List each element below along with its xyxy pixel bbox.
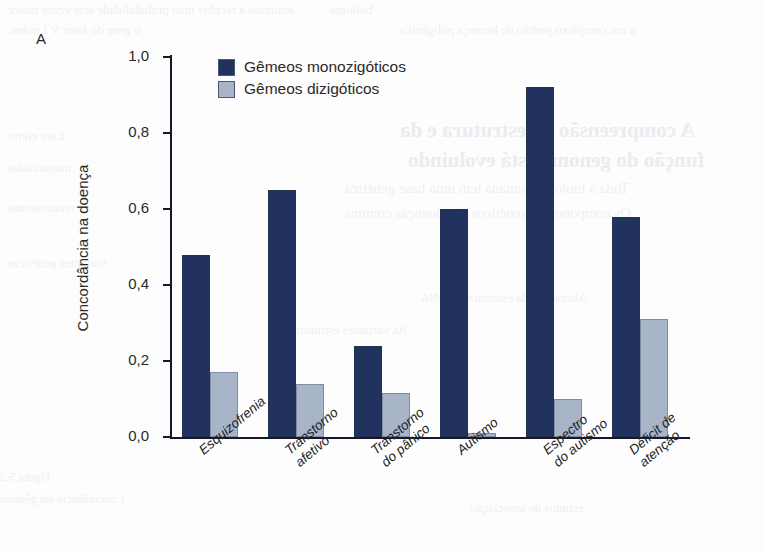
panel-label-a: A bbox=[36, 30, 47, 47]
y-tick-label: 0,4 bbox=[128, 275, 149, 292]
bar-mz bbox=[182, 255, 210, 437]
x-axis-line bbox=[170, 437, 690, 439]
bar-chart-figure: A Concordância na doença 0,00,20,40,60,8… bbox=[0, 0, 763, 553]
y-axis-title: Concordância na doença bbox=[74, 165, 91, 332]
bar-mz bbox=[526, 87, 554, 437]
legend-item-1: Gêmeos dizigóticos bbox=[218, 80, 406, 98]
y-tick-label: 0,0 bbox=[128, 427, 149, 444]
plot-area: 0,00,20,40,60,81,0 bbox=[172, 57, 688, 437]
y-tick: 0,2 bbox=[163, 360, 172, 362]
chart-legend: Gêmeos monozigóticosGêmeos dizigóticos bbox=[218, 58, 406, 102]
legend-label: Gêmeos monozigóticos bbox=[244, 58, 406, 76]
legend-swatch-icon bbox=[218, 59, 235, 76]
legend-swatch-icon bbox=[218, 81, 235, 98]
y-tick-label: 1,0 bbox=[128, 47, 149, 64]
bar-mz bbox=[354, 346, 382, 437]
y-tick: 0,6 bbox=[163, 208, 172, 210]
y-tick-label: 0,6 bbox=[128, 199, 149, 216]
bar-mz bbox=[440, 209, 468, 437]
bar-mz bbox=[268, 190, 296, 437]
y-tick: 0,4 bbox=[163, 284, 172, 286]
y-tick: 0,8 bbox=[163, 132, 172, 134]
y-tick: 1,0 bbox=[163, 56, 172, 58]
y-tick-label: 0,2 bbox=[128, 351, 149, 368]
y-tick-label: 0,8 bbox=[128, 123, 149, 140]
legend-item-0: Gêmeos monozigóticos bbox=[218, 58, 406, 76]
y-tick: 0,0 bbox=[163, 436, 172, 438]
legend-label: Gêmeos dizigóticos bbox=[244, 80, 379, 98]
bar-mz bbox=[612, 217, 640, 437]
